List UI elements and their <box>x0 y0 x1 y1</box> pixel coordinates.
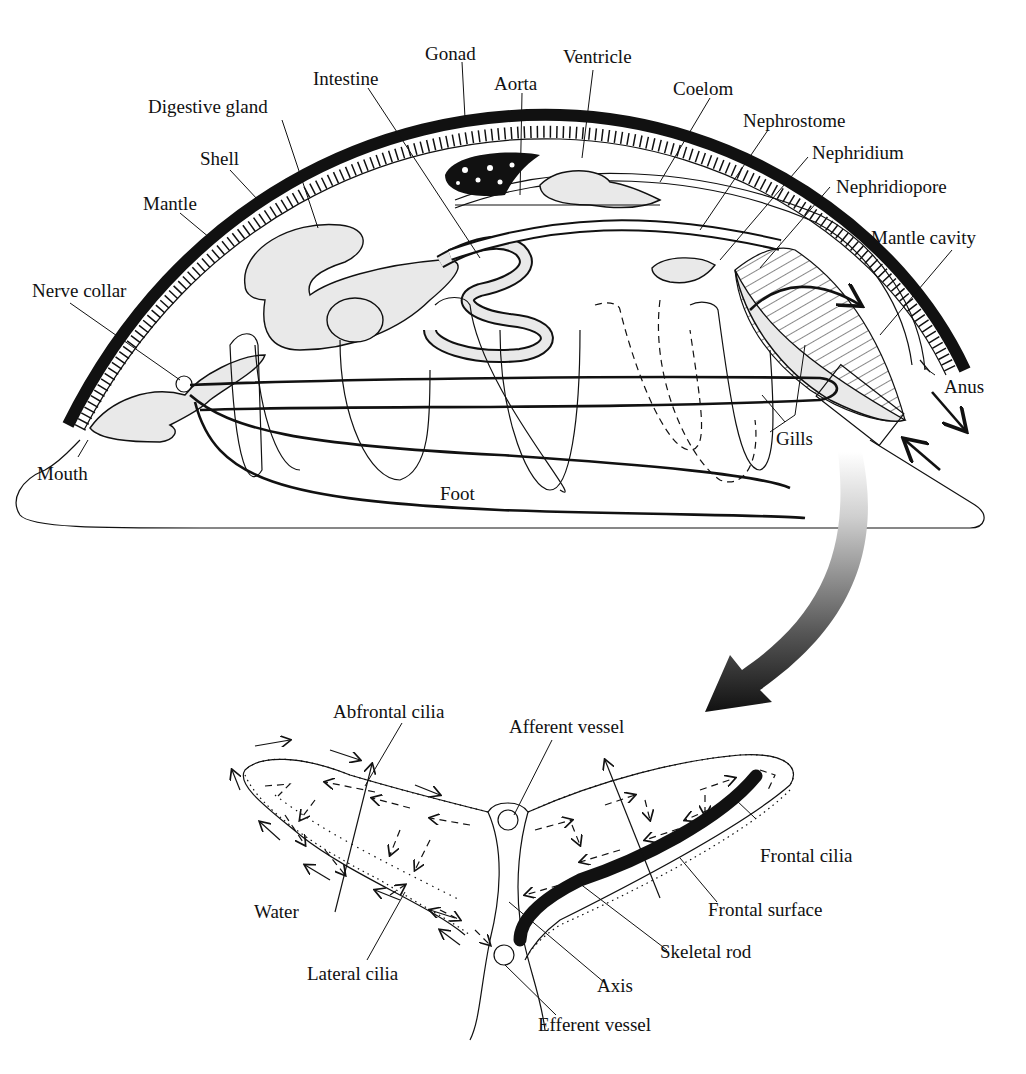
gill-detail-diagram <box>232 740 793 1040</box>
water-axis-right <box>605 760 660 898</box>
label-afferent-vessel: Afferent vessel <box>509 716 624 737</box>
label-nerve-collar: Nerve collar <box>32 280 127 301</box>
label-mantle: Mantle <box>143 193 197 214</box>
diagram-canvas: Gonad Ventricle Intestine Aorta Coelom D… <box>0 0 1026 1074</box>
label-nephrostome: Nephrostome <box>743 110 845 131</box>
label-skeletal-rod: Skeletal rod <box>660 941 752 962</box>
label-shell: Shell <box>200 148 239 169</box>
gill-leader-lines <box>365 723 755 1015</box>
label-coelom: Coelom <box>673 78 733 99</box>
label-gonad: Gonad <box>425 43 476 64</box>
ventricle <box>540 171 660 208</box>
nephridium <box>652 258 715 283</box>
label-aorta: Aorta <box>494 73 538 94</box>
label-intestine: Intestine <box>313 68 378 89</box>
label-mouth: Mouth <box>37 463 88 484</box>
oesophagus <box>90 355 265 442</box>
label-mantle-cavity: Mantle cavity <box>871 227 976 248</box>
label-anus: Anus <box>944 376 984 397</box>
gill-labels: Abfrontal cilia Afferent vessel Frontal … <box>254 701 853 1035</box>
efferent-vessel <box>494 945 514 965</box>
gonad <box>445 152 540 196</box>
label-nephridium: Nephridium <box>812 142 904 163</box>
mollusc-anatomy-figure: Gonad Ventricle Intestine Aorta Coelom D… <box>0 0 1026 1074</box>
label-water: Water <box>254 901 300 922</box>
label-ventricle: Ventricle <box>563 46 632 67</box>
label-abfrontal-cilia: Abfrontal cilia <box>333 701 445 722</box>
water-flow-out-arrow <box>932 392 965 430</box>
label-lateral-cilia: Lateral cilia <box>307 963 399 984</box>
curved-gradient-arrow-icon <box>705 452 868 712</box>
label-digestive-gland: Digestive gland <box>148 96 268 117</box>
label-foot: Foot <box>440 483 476 504</box>
label-frontal-surface: Frontal surface <box>708 899 822 920</box>
label-nephridiopore: Nephridiopore <box>836 176 947 197</box>
label-efferent-vessel: Efferent vessel <box>538 1014 651 1035</box>
label-frontal-cilia: Frontal cilia <box>760 845 853 866</box>
label-axis: Axis <box>597 975 633 996</box>
label-gills: Gills <box>776 428 813 449</box>
